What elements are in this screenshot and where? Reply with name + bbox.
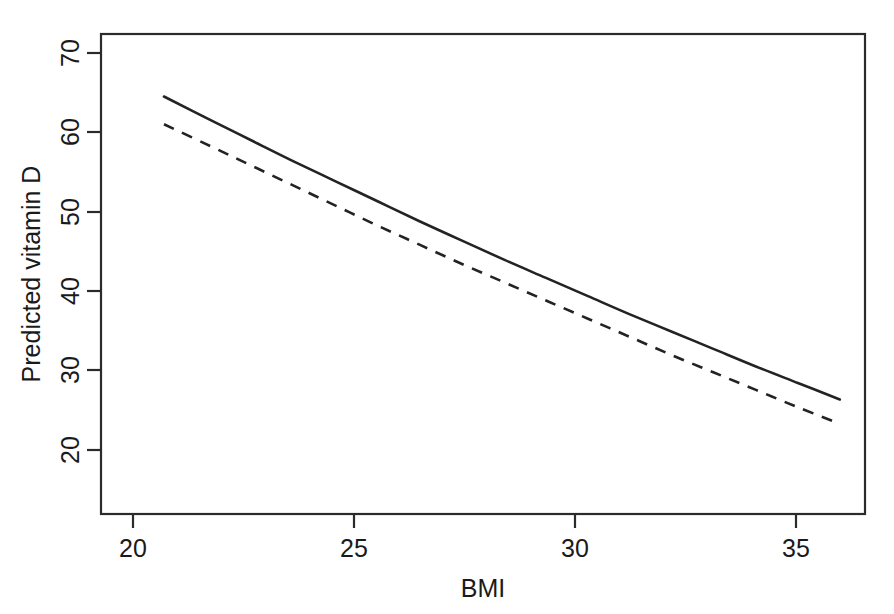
y-axis-ticks — [87, 53, 101, 450]
y-tick-label-40: 40 — [56, 277, 84, 305]
y-axis-title: Predicted vitamin D — [17, 166, 45, 383]
series-line-solid — [164, 97, 840, 400]
x-axis-tick-labels: 20 25 30 35 — [119, 534, 810, 562]
chart-figure: 20 25 30 35 BMI 20 30 40 50 60 70 Predic… — [0, 0, 894, 614]
series-line-dashed — [164, 124, 840, 423]
x-axis-ticks — [133, 514, 796, 528]
x-tick-label-20: 20 — [119, 534, 147, 562]
y-tick-label-20: 20 — [56, 436, 84, 464]
y-tick-label-30: 30 — [56, 356, 84, 384]
x-tick-label-25: 25 — [340, 534, 368, 562]
x-tick-label-35: 35 — [782, 534, 810, 562]
y-tick-label-60: 60 — [56, 118, 84, 146]
y-tick-label-50: 50 — [56, 198, 84, 226]
line-chart-canvas: 20 25 30 35 BMI 20 30 40 50 60 70 Predic… — [0, 0, 894, 614]
x-axis-title: BMI — [461, 574, 505, 602]
y-tick-label-70: 70 — [56, 39, 84, 67]
y-axis-tick-labels: 20 30 40 50 60 70 — [56, 39, 84, 464]
plot-frame-box — [101, 34, 865, 514]
x-tick-label-30: 30 — [561, 534, 589, 562]
